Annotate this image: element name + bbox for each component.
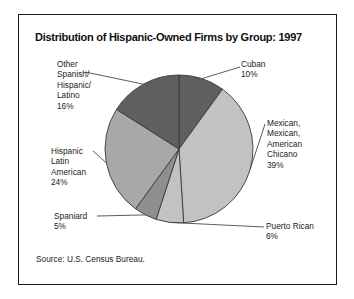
pie-label-hla-line2: Latin <box>51 156 69 166</box>
pie-label-cuban: Cuban 10% <box>241 59 265 80</box>
pie-label-spaniard-value: 5% <box>54 221 66 231</box>
pie-label-hla-line3: American <box>51 167 86 177</box>
pie-label-puerto-rican-line1: Puerto Rican <box>266 221 314 231</box>
pie-label-hla-line1: Hispanic <box>51 146 83 156</box>
leader-spaniard-line <box>97 215 145 216</box>
pie-label-puerto-rican-value: 6% <box>266 231 278 241</box>
leader-other-spanish-line <box>85 72 143 84</box>
pie-label-other-line2: Spanish/ <box>57 69 89 79</box>
pie-label-mexican-line2: Mexican, <box>267 128 300 138</box>
pie-label-cuban-value: 10% <box>241 69 258 79</box>
pie-label-mexican-value: 39% <box>267 160 284 170</box>
leader-cuban-line <box>202 67 240 79</box>
leader-hispanic-latin-american-line <box>93 151 106 163</box>
pie-label-mexican: Mexican, Mexican, American Chicano 39% <box>267 118 302 170</box>
pie-label-mexican-line4: Chicano <box>267 149 297 159</box>
pie-label-spaniard-line1: Spaniard <box>54 211 87 221</box>
pie-label-cuban-line1: Cuban <box>241 59 265 69</box>
chart-figure-frame: Distribution of Hispanic-Owned Firms by … <box>18 14 337 285</box>
pie-label-mexican-line3: American <box>267 139 302 149</box>
leader-puerto-rican-line <box>170 222 264 227</box>
pie-label-spaniard: Spaniard 5% <box>54 211 87 232</box>
pie-label-hispanic-latin-american: Hispanic Latin American 24% <box>51 146 86 188</box>
pie-label-hla-value: 24% <box>51 177 68 187</box>
pie-label-other-line3: Hispanic/ <box>57 80 91 90</box>
pie-label-other-line4: Latino <box>57 90 80 100</box>
pie-label-other-value: 16% <box>57 101 74 111</box>
source-note: Source: U.S. Census Bureau. <box>36 254 145 264</box>
pie-slices <box>105 75 253 223</box>
pie-label-mexican-line1: Mexican, <box>267 118 300 128</box>
pie-label-puerto-rican: Puerto Rican 6% <box>266 221 314 242</box>
pie-label-other-line1: Other <box>57 59 78 69</box>
pie-label-other-spanish: Other Spanish/ Hispanic/ Latino 16% <box>57 59 91 111</box>
